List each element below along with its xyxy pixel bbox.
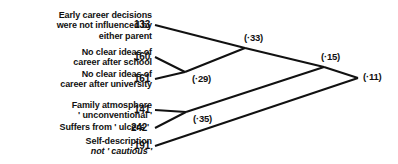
leaf-row-191: Self-description not ' cautious '	[0, 136, 152, 157]
edge-33-to-15	[245, 48, 324, 67]
dendrogram-figure: Early career decisions were not influenc…	[0, 0, 398, 164]
leaf-row-161: No clear ideas of career after universit…	[0, 69, 152, 90]
leaf-value-160: 160	[134, 51, 150, 62]
node-label-15: (·15)	[321, 51, 340, 62]
leaf-row-133: Early career decisions were not influenc…	[0, 10, 152, 41]
leaf-label-line: either parent	[57, 31, 152, 41]
leaf-row-160: No clear ideas of career after school	[0, 47, 152, 68]
node-label-35: (·35)	[193, 113, 212, 124]
node-label-29: (·29)	[192, 73, 211, 84]
edge-15-to-11	[324, 67, 358, 78]
leaf-value-133: 133	[134, 19, 150, 30]
edge-133-to-33	[155, 25, 245, 48]
leaf-row-242: Suffers from ' ulcers '	[0, 122, 149, 132]
emphasis-not: not	[91, 146, 105, 156]
node-label-11: (·11)	[363, 71, 382, 82]
leaf-row-141: Family atmosphere ' unconventional '	[0, 100, 152, 121]
edge-161-to-29	[155, 72, 185, 79]
edge-141-to-35	[155, 110, 186, 112]
edge-242-to-35	[155, 112, 186, 128]
edge-29-to-33	[185, 48, 245, 72]
leaf-value-191: 191	[134, 140, 150, 151]
leaf-value-242: 242	[131, 122, 147, 133]
leaf-value-161: 161	[134, 73, 150, 84]
node-label-33: (·33)	[244, 32, 263, 43]
leaf-value-141: 141	[134, 104, 150, 115]
edge-160-to-29	[155, 57, 185, 72]
